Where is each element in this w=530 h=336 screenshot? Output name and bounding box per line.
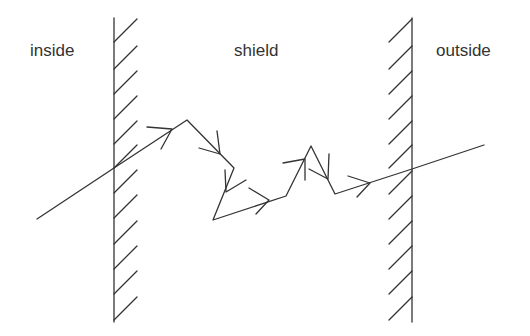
arrow-icon	[249, 188, 269, 214]
region-label-inside: inside	[30, 42, 74, 59]
arrow-icon	[283, 159, 305, 180]
path-arrows	[147, 127, 370, 214]
particle-path	[37, 120, 484, 220]
region-label-shield: shield	[234, 42, 278, 59]
inner-wall	[114, 18, 137, 322]
inner-wall-hatching	[114, 19, 137, 320]
region-label-outside: outside	[436, 42, 491, 59]
